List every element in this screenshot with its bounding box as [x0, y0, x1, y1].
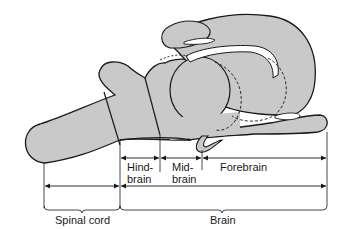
neural-tube-body [25, 59, 190, 163]
label-midbrain-2: brain [172, 173, 196, 185]
midbrain-dome [170, 57, 230, 123]
hook-structure [196, 136, 222, 152]
label-brain: Brain [210, 214, 236, 226]
brace-brain [120, 206, 327, 213]
label-spinal-cord: Spinal cord [55, 214, 110, 226]
label-midbrain-1: Mid- [172, 161, 194, 173]
label-forebrain: Forebrain [220, 161, 267, 173]
label-hindbrain-2: brain [127, 173, 151, 185]
neural-tube-diagram: Hind- brain Mid- brain Forebrain Spinal … [0, 0, 343, 229]
brace-spinal-cord [44, 206, 120, 213]
label-hindbrain-1: Hind- [127, 161, 154, 173]
